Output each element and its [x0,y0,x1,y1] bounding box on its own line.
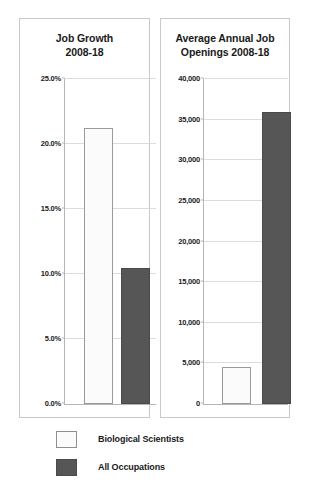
legend-label: Biological Scientists [98,434,184,444]
ytick-label-10000: 10,000 [178,317,200,326]
ytick-label-0: 0 [196,399,200,408]
tick-mark-15 [62,208,65,209]
ytick-label-20: 20.0% [41,139,61,148]
tick-mark-0 [62,403,65,404]
ytick-label-35000: 35,000 [178,114,200,123]
chart-legend: Biological Scientists All Occupations [19,428,290,484]
ytick-label-5: 5.0% [45,334,61,343]
legend-item-all-occupations: All Occupations [56,458,165,476]
ytick-label-5000: 5,000 [182,358,200,367]
tick-mark-20 [62,143,65,144]
bar-all-occupations [121,268,150,405]
ytick-label-0: 0.0% [45,399,61,408]
tick-mark-0 [201,403,204,404]
tick-mark-5000 [201,362,204,363]
tick-mark-10000 [201,321,204,322]
ytick-label-40000: 40,000 [178,74,200,83]
bar-biological-scientists [222,367,251,404]
chart-panel-job-growth: Job Growth 2008-18 25.0% 20.0% 15.0% 10.… [19,18,150,418]
chart-title-job-openings: Average Annual Job Openings 2008-18 [165,31,285,59]
tick-mark-25 [62,78,65,79]
bar-biological-scientists [84,128,113,404]
ytick-label-10: 10.0% [41,269,61,278]
ytick-label-25: 25.0% [41,74,61,83]
chart-panel-job-openings: Average Annual Job Openings 2008-18 40,0… [160,18,290,418]
chart-title-line-2: 2008-18 [24,45,145,59]
ytick-label-15: 15.0% [41,204,61,213]
ytick-label-30000: 30,000 [178,155,200,164]
tick-mark-15000 [201,281,204,282]
legend-item-biological-scientists: Biological Scientists [56,430,184,448]
chart-title-line-1: Average Annual Job [165,31,285,45]
tick-mark-35000 [201,118,204,119]
tick-mark-5 [62,338,65,339]
tick-mark-20000 [201,240,204,241]
legend-swatch-icon [56,431,77,448]
bar-all-occupations [262,112,291,404]
ytick-label-25000: 25,000 [178,195,200,204]
plot-area-job-openings: 40,000 35,000 30,000 25,000 20,000 15,00… [203,79,288,405]
tick-mark-25000 [201,199,204,200]
gridline-25: 25.0% [65,78,156,79]
ytick-label-20000: 20,000 [178,236,200,245]
tick-mark-30000 [201,159,204,160]
legend-label: All Occupations [98,462,165,472]
legend-swatch-icon [56,459,77,476]
gridline-40000: 40,000 [204,78,288,79]
chart-title-line-2: Openings 2008-18 [165,45,285,59]
plot-area-job-growth: 25.0% 20.0% 15.0% 10.0% 5.0% 0.0% [64,79,156,405]
chart-figure: Job Growth 2008-18 25.0% 20.0% 15.0% 10.… [0,0,310,490]
chart-title-line-1: Job Growth [24,31,145,45]
tick-mark-10 [62,273,65,274]
tick-mark-40000 [201,78,204,79]
chart-title-job-growth: Job Growth 2008-18 [24,31,145,59]
ytick-label-15000: 15,000 [178,277,200,286]
